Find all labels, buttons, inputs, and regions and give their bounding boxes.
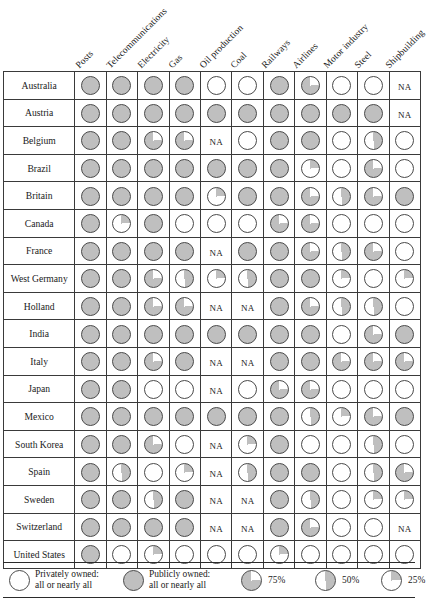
na-label: NA [210, 496, 223, 506]
cell-spain-posts [75, 458, 106, 486]
pie-100-percent-icon [270, 352, 289, 371]
cell-south-korea-oil-production: NA [201, 430, 232, 458]
pie-100-percent-icon [144, 325, 163, 344]
cell-australia-railways [263, 72, 294, 100]
cell-japan-telecommunications [106, 375, 137, 403]
pie-50-percent-icon [315, 570, 336, 591]
cell-australia-coal [232, 72, 263, 100]
na-label: NA [241, 303, 254, 313]
pie-100-percent-icon [270, 242, 289, 261]
pie-100-percent-icon [175, 187, 194, 206]
pie-75-percent-icon [301, 76, 320, 95]
legend-public-label: Publicly owned: all or nearly all [149, 569, 210, 590]
cell-france-steel [358, 237, 389, 265]
pie-75-percent-icon [364, 325, 383, 344]
pie-100-percent-icon [81, 463, 100, 482]
cell-japan-motor-industry [326, 375, 357, 403]
cell-india-coal [232, 320, 263, 348]
cell-austria-steel [358, 99, 389, 127]
cell-britain-coal [232, 182, 263, 210]
pie-100-percent-icon [112, 352, 131, 371]
cell-mexico-coal [232, 403, 263, 431]
pie-100-percent-icon [81, 352, 100, 371]
legend-private-label: Privately owned: all or nearly all [35, 569, 99, 590]
pie-100-percent-icon [395, 187, 414, 206]
pie-100-percent-icon [207, 159, 226, 178]
cell-sweden-coal: NA [232, 485, 263, 513]
pie-0-percent-icon [332, 76, 351, 95]
cell-italy-telecommunications [106, 347, 137, 375]
pie-100-percent-icon [112, 435, 131, 454]
cell-india-steel [358, 320, 389, 348]
pie-50-percent-icon [301, 490, 320, 509]
cell-italy-airlines [295, 347, 326, 375]
pie-100-percent-icon [112, 269, 131, 288]
cell-sweden-oil-production: NA [201, 485, 232, 513]
pie-100-percent-icon [112, 325, 131, 344]
cell-belgium-steel [358, 127, 389, 155]
pie-100-percent-icon [270, 518, 289, 537]
row-label-canada: Canada [4, 209, 75, 237]
na-label: NA [210, 524, 223, 534]
cell-india-telecommunications [106, 320, 137, 348]
pie-50-percent-icon [144, 490, 163, 509]
cell-italy-electricity [138, 347, 169, 375]
table-row: Canada [4, 209, 421, 237]
pie-75-percent-icon [332, 352, 351, 371]
pie-75-percent-icon [144, 352, 163, 371]
row-label-india: India [4, 320, 75, 348]
pie-100-percent-icon [81, 76, 100, 95]
pie-100-percent-icon [238, 159, 257, 178]
table-body: AustraliaNAAustriaNABelgiumNABrazilBrita… [4, 72, 421, 569]
pie-0-percent-icon [175, 380, 194, 399]
pie-100-percent-icon [81, 187, 100, 206]
pie-100-percent-icon [270, 407, 289, 426]
cell-spain-gas [169, 458, 200, 486]
cell-brazil-airlines [295, 154, 326, 182]
row-label-switzerland: Switzerland [4, 513, 75, 541]
cell-france-oil-production: NA [201, 237, 232, 265]
pie-100-percent-icon [395, 407, 414, 426]
pie-0-percent-icon [238, 380, 257, 399]
pie-0-percent-icon [144, 380, 163, 399]
cell-australia-gas [169, 72, 200, 100]
pie-100-percent-icon [81, 435, 100, 454]
na-label: NA [210, 386, 223, 396]
column-header-gas: Gas [167, 53, 184, 70]
pie-50-percent-icon [238, 269, 257, 288]
cell-canada-coal [232, 209, 263, 237]
cell-belgium-railways [263, 127, 294, 155]
legend-private-line1: Privately owned: [35, 569, 99, 579]
na-label: NA [398, 524, 411, 534]
cell-australia-posts [75, 72, 106, 100]
pie-100-percent-icon [144, 242, 163, 261]
legend-public-line2: all or nearly all [149, 580, 206, 590]
pie-25-percent-icon [332, 407, 351, 426]
pie-100-percent-icon [112, 490, 131, 509]
pie-100-percent-icon [301, 131, 320, 150]
cell-italy-coal: NA [232, 347, 263, 375]
na-label: NA [210, 441, 223, 451]
cell-canada-motor-industry [326, 209, 357, 237]
pie-0-percent-icon [332, 518, 351, 537]
cell-australia-airlines [295, 72, 326, 100]
cell-west-germany-steel [358, 265, 389, 293]
table-row: SpainNA [4, 458, 421, 486]
pie-0-percent-icon [332, 490, 351, 509]
pie-100-percent-icon [81, 104, 100, 123]
row-label-japan: Japan [4, 375, 75, 403]
cell-west-germany-gas [169, 265, 200, 293]
cell-italy-railways [263, 347, 294, 375]
cell-italy-shipbuilding [389, 347, 420, 375]
pie-75-percent-icon [301, 187, 320, 206]
cell-south-korea-coal [232, 430, 263, 458]
legend-public-line1: Publicly owned: [149, 569, 210, 579]
cell-south-korea-telecommunications [106, 430, 137, 458]
cell-west-germany-railways [263, 265, 294, 293]
cell-spain-oil-production: NA [201, 458, 232, 486]
pie-75-percent-icon [301, 297, 320, 316]
cell-canada-steel [358, 209, 389, 237]
pie-50-percent-icon [112, 463, 131, 482]
cell-sweden-motor-industry [326, 485, 357, 513]
row-label-britain: Britain [4, 182, 75, 210]
